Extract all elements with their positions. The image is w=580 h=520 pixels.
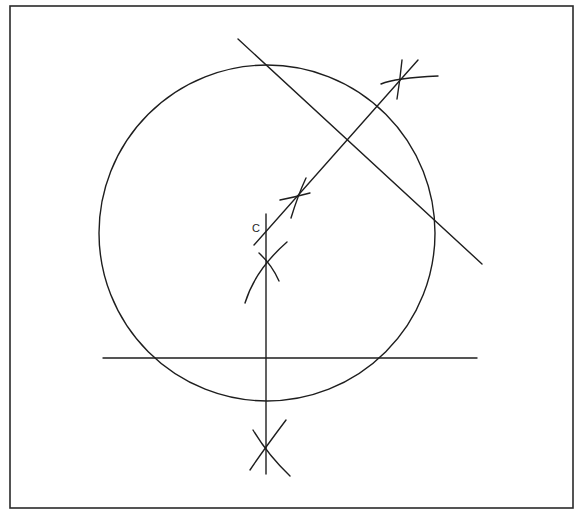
center-label: C [252, 222, 260, 234]
arc-diag-top-a [381, 76, 438, 84]
construction-arcs [245, 60, 438, 476]
diagram-canvas: C [0, 0, 580, 520]
diagonal-chord-line [238, 39, 482, 264]
diagram-frame [10, 6, 573, 508]
arc-lower-left [250, 420, 286, 470]
circle [99, 65, 435, 401]
arc-upper-vert-right [259, 253, 279, 281]
diagonal-bisector-line [254, 60, 418, 245]
arc-lower-right [253, 430, 290, 476]
construction-svg: C [0, 0, 580, 520]
arc-diag-upper-a [291, 178, 306, 218]
